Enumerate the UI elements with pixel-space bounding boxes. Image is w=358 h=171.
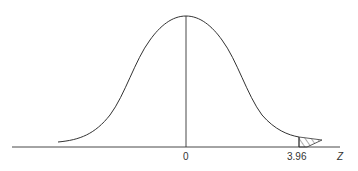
tick-label-zero: 0 bbox=[183, 151, 189, 162]
bell-curve bbox=[58, 16, 299, 142]
normal-curve-chart bbox=[0, 0, 358, 171]
tick-label-critical: 3.96 bbox=[287, 151, 306, 162]
axis-label-z: Z bbox=[337, 151, 343, 162]
shaded-tail bbox=[299, 137, 322, 147]
